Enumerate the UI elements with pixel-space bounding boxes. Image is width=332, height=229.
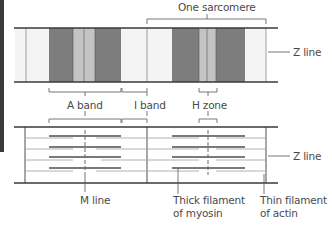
banded-view xyxy=(14,28,278,82)
m-line-label: M line xyxy=(80,194,110,206)
sarcomere-bracket xyxy=(147,14,266,24)
thin-filament-label-line2: of actin xyxy=(260,207,298,219)
a-band-left-dark-2 xyxy=(95,28,121,82)
z-line-label-bottom: Z line xyxy=(293,150,321,162)
i-band-label: I band xyxy=(134,99,166,111)
h-zone-left-1 xyxy=(73,28,84,82)
one-sarcomere-label: One sarcomere xyxy=(178,1,256,13)
filament-view xyxy=(14,127,278,183)
z-line-label-top: Z line xyxy=(293,46,321,58)
thin-filament-label-line1: Thin filament xyxy=(260,194,327,206)
thick-filament-label-line2: of myosin xyxy=(173,207,223,219)
h-zone-right-2 xyxy=(207,28,216,82)
h-zone-label: H zone xyxy=(192,99,227,111)
a-band-right-dark-1 xyxy=(172,28,199,82)
a-band-label: A band xyxy=(67,99,103,111)
a-band-right-dark-2 xyxy=(216,28,245,82)
h-zone-left-2 xyxy=(84,28,95,82)
a-band-left-dark-1 xyxy=(49,28,73,82)
thick-filament-label-line1: Thick filament xyxy=(173,194,245,206)
h-zone-right-1 xyxy=(199,28,207,82)
